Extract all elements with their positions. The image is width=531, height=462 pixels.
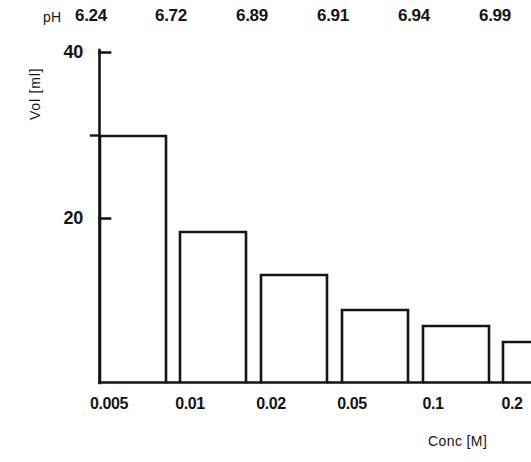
ph-value-5: 6.99 (479, 7, 511, 24)
y-tick-label-20: 20 (45, 209, 83, 227)
ph-value-3: 6.91 (317, 7, 349, 24)
bar-0 (100, 136, 166, 382)
x-tick-label-0: 0.005 (72, 396, 146, 412)
x-tick-label-3: 0.05 (315, 396, 389, 412)
ph-axis-label: pH (43, 10, 61, 24)
bar-4 (423, 326, 489, 382)
x-tick-label-2: 0.02 (234, 396, 308, 412)
ph-value-0: 6.24 (75, 7, 107, 24)
plot-area (0, 0, 531, 462)
bar-2 (261, 275, 327, 382)
ph-value-1: 6.72 (155, 7, 187, 24)
x-tick-label-4: 0.1 (396, 396, 470, 412)
bar-3 (342, 310, 408, 382)
x-axis-title: Conc [M] (428, 434, 487, 448)
x-tick-label-5: 0.2 (475, 396, 531, 412)
ph-value-2: 6.89 (236, 7, 268, 24)
x-tick-label-1: 0.01 (153, 396, 227, 412)
bar-chart-figure: pH 6.24 6.72 6.89 6.91 6.94 6.99 Vol [ml… (0, 0, 531, 462)
bar-1 (180, 232, 246, 382)
plot-svg (0, 0, 531, 462)
bar-5 (503, 342, 531, 382)
ph-value-4: 6.94 (398, 7, 430, 24)
y-axis-title: Vol [ml] (28, 68, 42, 120)
y-tick-label-40: 40 (45, 43, 83, 61)
